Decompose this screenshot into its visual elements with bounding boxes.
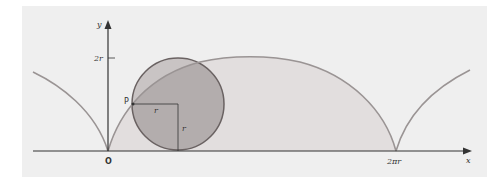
point-p-marker [132,103,135,106]
origin-label: O [105,157,112,166]
cycloid-diagram: y x O 2r 2πr P r r [0,0,499,183]
point-p-label: P [124,97,129,106]
cycloid-curve-left [33,72,108,151]
y-axis-label: y [96,20,102,29]
x-axis-arrow-icon [463,148,472,155]
x-tick-label: 2πr [386,157,402,166]
cycloid-curve-right [396,70,470,151]
x-axis-label: x [466,156,471,165]
y-tick-label: 2r [93,54,104,63]
y-axis-arrow-icon [105,20,112,29]
